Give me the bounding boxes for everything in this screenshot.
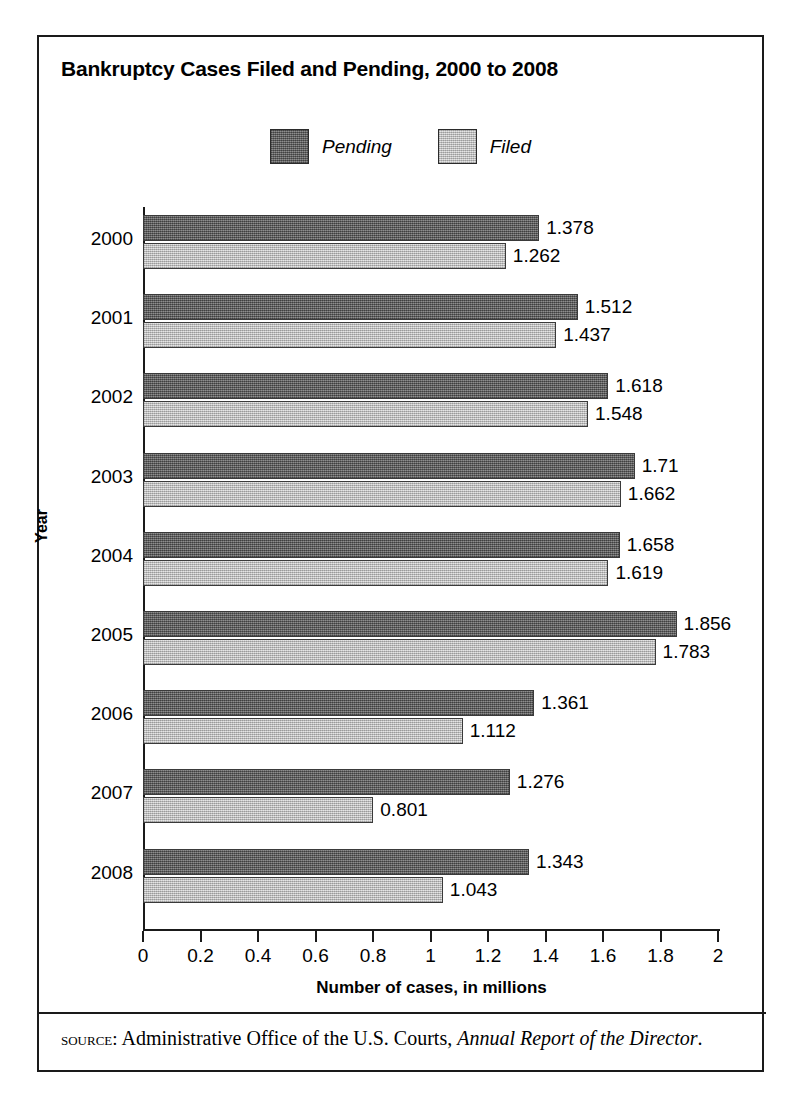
y-axis-tick-label: 2006 [63, 703, 133, 725]
bar-value-pending: 1.512 [585, 296, 633, 318]
bar-value-pending: 1.361 [541, 692, 589, 714]
bar-group: 1.3781.262 [143, 215, 718, 271]
bar-group: 1.3431.043 [143, 849, 718, 905]
x-axis-tick-label: 0.6 [302, 945, 328, 967]
x-axis-tick-label: 1.2 [475, 945, 501, 967]
bar-group: 1.5121.437 [143, 294, 718, 350]
bar-pending [143, 215, 539, 241]
x-axis-tick-label: 0.4 [245, 945, 271, 967]
bar-group: 1.3611.112 [143, 690, 718, 746]
bar-pending [143, 690, 534, 716]
y-axis-tick-label: 2002 [63, 386, 133, 408]
source-period: . [698, 1027, 703, 1049]
bar-filed [143, 639, 656, 665]
x-axis-tick-label: 1.6 [590, 945, 616, 967]
bar-group: 1.711.662 [143, 453, 718, 509]
source-body: Administrative Office of the U.S. Courts… [118, 1027, 458, 1049]
bar-filed [143, 877, 443, 903]
y-axis-tick-label: 2007 [63, 782, 133, 804]
bar-value-pending: 1.343 [536, 851, 584, 873]
source-divider [39, 1012, 766, 1014]
x-axis-title: Number of cases, in millions [143, 978, 720, 998]
x-axis-tick-label: 0.2 [187, 945, 213, 967]
bar-value-pending: 1.71 [642, 455, 679, 477]
x-axis-tick [602, 931, 604, 942]
bar-value-pending: 1.618 [615, 375, 663, 397]
bar-value-pending: 1.658 [627, 534, 675, 556]
bar-value-filed: 1.437 [563, 324, 611, 346]
bar-filed [143, 401, 588, 427]
y-axis-tick-label: 2001 [63, 307, 133, 329]
bar-filed [143, 481, 621, 507]
x-axis-tick-label: 0 [138, 945, 149, 967]
bar-pending [143, 453, 635, 479]
x-axis-tick-label: 2 [713, 945, 724, 967]
bar-pending [143, 849, 529, 875]
bar-value-filed: 1.548 [595, 403, 643, 425]
x-axis-tick [372, 931, 374, 942]
figure-frame: Bankruptcy Cases Filed and Pending, 2000… [37, 35, 764, 1072]
plot-area: Year Number of cases, in millions 00.20.… [39, 37, 766, 1074]
y-axis-tick-label: 2008 [63, 862, 133, 884]
bar-value-filed: 0.801 [380, 799, 428, 821]
bar-value-filed: 1.662 [628, 483, 676, 505]
x-axis-tick [430, 931, 432, 942]
bar-group: 1.6181.548 [143, 373, 718, 429]
x-axis-tick-label: 1.4 [532, 945, 558, 967]
bar-group: 1.2760.801 [143, 769, 718, 825]
x-axis-tick [717, 931, 719, 942]
bar-pending [143, 532, 620, 558]
y-axis-tick-label: 2000 [63, 228, 133, 250]
y-axis-tick-label: 2003 [63, 466, 133, 488]
bar-pending [143, 611, 677, 637]
bar-filed [143, 797, 373, 823]
bar-value-pending: 1.378 [546, 217, 594, 239]
bar-group: 1.8561.783 [143, 611, 718, 667]
source-note: source: Administrative Office of the U.S… [61, 1027, 703, 1050]
bar-group: 1.6581.619 [143, 532, 718, 588]
x-axis-tick [545, 931, 547, 942]
y-axis-title: Year [33, 509, 51, 543]
bar-filed [143, 718, 463, 744]
x-axis-tick [142, 931, 144, 942]
bar-value-filed: 1.783 [663, 641, 711, 663]
bar-pending [143, 294, 578, 320]
bar-filed [143, 243, 506, 269]
bar-value-filed: 1.043 [450, 879, 498, 901]
x-axis-tick-label: 0.8 [360, 945, 386, 967]
source-kicker: source: [61, 1028, 118, 1049]
bar-value-filed: 1.619 [615, 562, 663, 584]
bar-filed [143, 560, 608, 586]
bar-pending [143, 373, 608, 399]
x-axis-tick [660, 931, 662, 942]
bar-value-filed: 1.262 [513, 245, 561, 267]
x-axis-tick [315, 931, 317, 942]
bar-value-filed: 1.112 [470, 720, 516, 742]
y-axis-tick-label: 2005 [63, 624, 133, 646]
x-axis-tick-label: 1.8 [647, 945, 673, 967]
x-axis-tick [257, 931, 259, 942]
y-axis-tick-label: 2004 [63, 545, 133, 567]
bar-value-pending: 1.276 [517, 771, 565, 793]
x-axis-tick-label: 1 [425, 945, 436, 967]
bar-value-pending: 1.856 [684, 613, 732, 635]
source-publication: Annual Report of the Director [457, 1027, 697, 1049]
x-axis-tick [200, 931, 202, 942]
bar-pending [143, 769, 510, 795]
bar-filed [143, 322, 556, 348]
x-axis-tick [487, 931, 489, 942]
x-axis-line [143, 929, 720, 931]
